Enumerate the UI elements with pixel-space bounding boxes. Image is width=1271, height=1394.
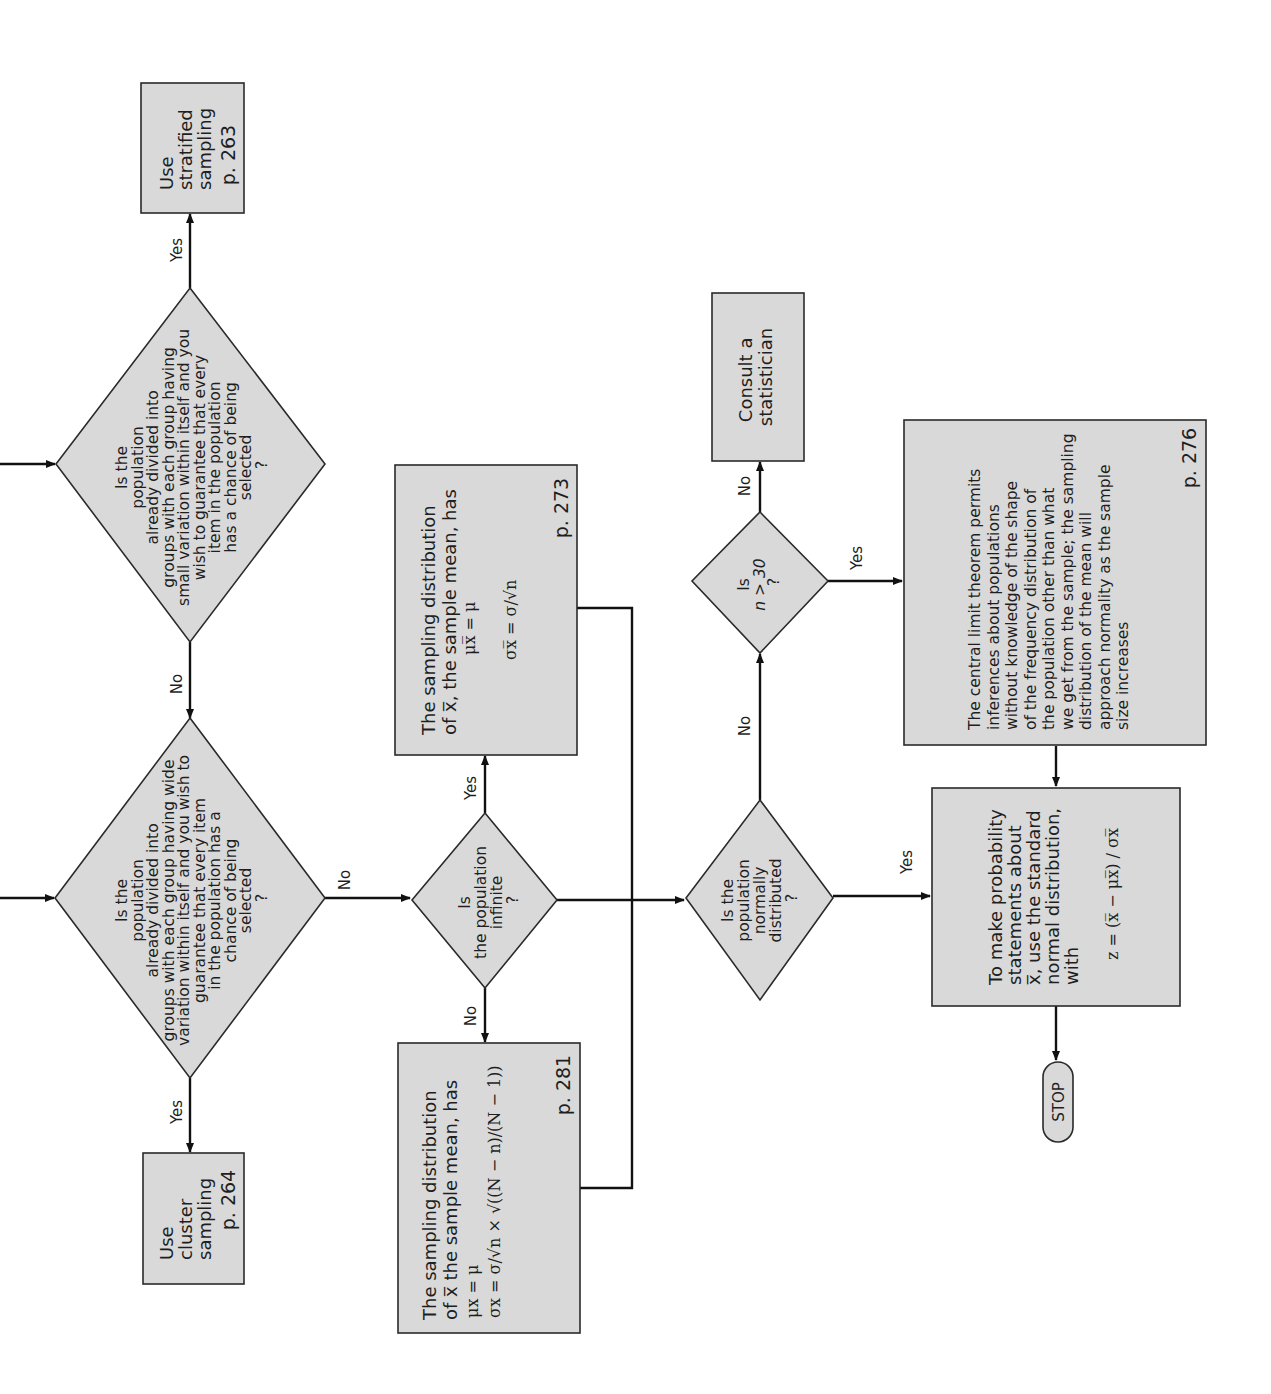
page-reference: p. 264 [217,1170,239,1230]
label-normal-no: No [736,716,754,736]
node-probability-statements: To make probability statements about x̅,… [932,788,1180,1006]
node-infinite-sampling-distribution: The sampling distribution of x̅, the sam… [395,465,577,755]
formula-std: σx = σ/√n × √((N − n)/(N − 1)) [485,1065,504,1318]
node-stop: STOP [1043,1062,1073,1142]
label-inf-no: No [462,1006,480,1026]
formula-mean: μx̅ = μ [460,602,479,655]
label-small-no: No [168,674,186,694]
label-inf-yes: Yes [462,776,480,801]
label-n30-no: No [736,476,754,496]
page-reference: p. 281 [552,1055,574,1115]
page-reference: p. 263 [217,125,239,185]
label-normal-yes: Yes [898,850,916,875]
formula-std: σx̅ = σ/√n [501,580,520,660]
edge-merge-boxes [576,608,632,1188]
stop-label: STOP [1050,1082,1068,1122]
formula-z: z = (x̅ − μx̅) / σx̅ [1103,828,1122,960]
node-decision-normal: Is the population normally distributed ? [686,800,833,1000]
node-text: Consult a statistician [735,328,776,426]
node-consult-statistician: Consult a statistician [712,293,804,461]
node-stratified-sampling: Use stratified sampling p. 263 [141,83,244,213]
node-text: The sampling distribution of x̅ the samp… [419,1080,461,1321]
node-text: The sampling distribution of x̅, the sam… [418,489,460,736]
label-small-yes: Yes [168,238,186,263]
label-wide-yes: Yes [168,1100,186,1125]
node-finite-sampling-distribution: The sampling distribution of x̅ the samp… [398,1043,580,1333]
page-reference: p. 276 [1178,428,1200,488]
node-central-limit-theorem: The central limit theorem permits infere… [904,420,1206,745]
label-wide-no: No [336,870,354,890]
label-n30-yes: Yes [848,546,866,571]
node-decision-n-greater-30: Is n > 30 ? [692,512,828,653]
node-cluster-sampling: Use cluster sampling p. 264 [143,1153,244,1284]
page-reference: p. 273 [550,478,572,538]
flowchart-canvas: Yes No Yes No Yes No Yes No Yes No Use s… [0,0,1271,1394]
node-decision-wide-variation: Is the population already divided into g… [55,718,325,1078]
node-decision-infinite: Is the population infinite ? [412,813,557,988]
node-decision-small-variation: Is the population already divided into g… [56,288,325,642]
formula-mean: μx = μ [463,1265,482,1318]
